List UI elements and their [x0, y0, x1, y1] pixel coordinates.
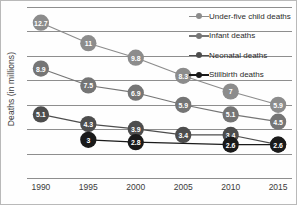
- data-point-label: 4.3: [84, 121, 94, 128]
- legend-dot: [196, 13, 202, 19]
- legend-marker-icon: [189, 31, 209, 41]
- x-axis-line: [27, 178, 292, 179]
- x-axis-tick-label: 2000: [126, 182, 145, 192]
- data-point-label: 3: [86, 137, 90, 144]
- chart-legend: Under-five child deathsInfant deathsNeon…: [189, 11, 293, 89]
- x-axis-labels: 199019952000200520102015: [27, 180, 292, 198]
- data-point-label: 3.9: [131, 126, 141, 133]
- data-point-label: 7: [229, 89, 233, 96]
- legend-item[interactable]: Stillbirth deaths: [189, 70, 293, 80]
- legend-item[interactable]: Under-five child deaths: [189, 11, 293, 21]
- legend-item-label: Infant deaths: [209, 31, 255, 40]
- data-point-label: 4.5: [273, 119, 283, 126]
- data-point-label: 11: [85, 40, 92, 47]
- legend-item[interactable]: Neonatal deaths: [189, 50, 293, 60]
- chart-container: Deaths (in millions) 12.7119.88.375.98.9…: [0, 0, 297, 205]
- legend-marker-icon: [189, 50, 209, 60]
- x-axis-tick-label: 2005: [174, 182, 193, 192]
- data-point-label: 9.8: [131, 55, 141, 62]
- data-point-label: 5.1: [226, 111, 236, 118]
- legend-item-label: Under-five child deaths: [209, 12, 291, 21]
- data-point-label: 5.1: [36, 111, 46, 118]
- data-point-label: 2.8: [131, 139, 141, 146]
- x-axis-tick-label: 1990: [31, 182, 50, 192]
- data-point-label: 2.6: [226, 142, 236, 149]
- y-axis-title: Deaths (in millions): [0, 1, 22, 176]
- legend-dot: [196, 52, 202, 58]
- legend-marker-icon: [189, 70, 209, 80]
- data-point-label: 5.9: [178, 102, 188, 109]
- data-point-label: 8.3: [178, 73, 188, 80]
- data-point-label: 3.4: [178, 132, 188, 139]
- data-point-label: 6.9: [131, 90, 141, 97]
- series-neonatal-deaths: 5.14.33.93.43.42.6: [33, 106, 286, 152]
- x-axis-tick-label: 1995: [79, 182, 98, 192]
- legend-dot: [196, 72, 202, 78]
- data-point-label: 2.6: [273, 142, 283, 149]
- y-axis-title-label: Deaths (in millions): [6, 51, 16, 125]
- data-point-label: 12.7: [34, 20, 48, 27]
- legend-item[interactable]: Infant deaths: [189, 31, 293, 41]
- data-point-label: 5.9: [273, 102, 283, 109]
- legend-marker-icon: [189, 11, 209, 21]
- legend-item-label: Neonatal deaths: [209, 51, 267, 60]
- x-axis-tick-label: 2010: [221, 182, 240, 192]
- data-point-label: 8.9: [36, 66, 46, 73]
- x-axis-tick-label: 2015: [269, 182, 288, 192]
- legend-item-label: Stillbirth deaths: [209, 70, 264, 79]
- data-point-label: 7.5: [84, 82, 94, 89]
- legend-dot: [196, 33, 202, 39]
